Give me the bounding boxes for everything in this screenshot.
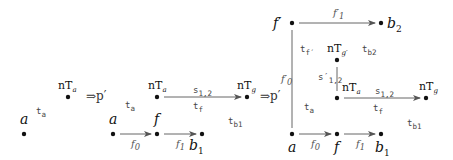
label-f1prime: f′1 xyxy=(333,8,344,20)
node-b1: b1 xyxy=(375,140,390,158)
label-s12: s1,2 xyxy=(193,86,212,97)
transition-arrow-1: ⇒p′ xyxy=(86,90,106,102)
label-f0prime: f′0 xyxy=(281,74,292,86)
node-a: a xyxy=(20,112,28,126)
label-f0: f0 xyxy=(311,139,320,151)
label-f0: f0 xyxy=(131,139,140,151)
label-tfprime: tf′ xyxy=(300,45,314,56)
label-tf: tf xyxy=(373,104,383,115)
node-nTg: nTg xyxy=(237,80,256,94)
node-b1: b1 xyxy=(189,138,204,156)
label-f1: f1 xyxy=(356,139,365,151)
node-b2: b2 xyxy=(387,16,402,34)
label-s12: s1,2 xyxy=(375,87,394,98)
node-nTg: nTg xyxy=(419,81,438,95)
node-nTgprime: nTg′ xyxy=(327,43,348,57)
label-f1: f1 xyxy=(176,139,185,151)
node-nTa: nTa xyxy=(58,80,77,94)
label-tb1: tb1 xyxy=(407,119,421,130)
transition-arrow-2: ⇒p′ xyxy=(260,90,280,102)
label-tb2: tb2 xyxy=(362,45,376,56)
node-a: a xyxy=(288,140,296,154)
label-ta: ta xyxy=(125,101,135,112)
label-s12prime: s′1,2 xyxy=(318,73,342,84)
node-nTa: nTa xyxy=(148,80,167,94)
node-f: f xyxy=(334,140,339,154)
diagram-canvas: a nTa ta ⇒p′ a f b1 nTa nTg f0 f1 s1,2 t… xyxy=(0,0,453,160)
node-fprime: f′ xyxy=(273,16,281,30)
node-f: f xyxy=(154,112,159,126)
node-nTa: nTa xyxy=(342,82,361,96)
label-tb1: tb1 xyxy=(228,117,242,128)
node-a: a xyxy=(109,112,117,126)
label-ta: ta xyxy=(304,103,314,114)
label-ta: ta xyxy=(36,107,46,118)
label-tf: tf xyxy=(193,102,203,113)
